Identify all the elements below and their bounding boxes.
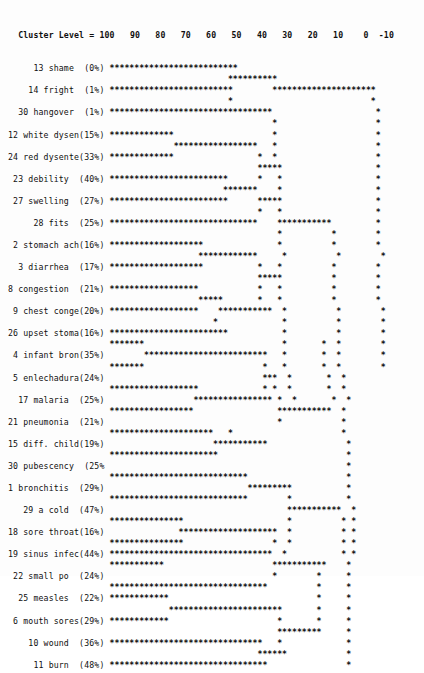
dendrogram-dots: ************* * * — [110, 130, 386, 140]
row-spacer — [8, 428, 110, 438]
row-spacer — [8, 207, 110, 217]
dendrogram-leaf-row: 18 sore throat(16%) ********************… — [8, 527, 394, 538]
row-spacer — [8, 339, 110, 349]
dendrogram-link-row: ********** — [8, 74, 394, 85]
dendrogram-leaf-row: 25 measles (22%) ************ * * — [8, 593, 394, 604]
dendrogram-dots: *********************** * * — [110, 605, 386, 615]
dendrogram-leaf-row: 6 mouth sores(29%) ************ * * * — [8, 616, 394, 627]
dendrogram-dots: ************************ * * * — [110, 174, 386, 184]
dendrogram-dots: * — [110, 461, 386, 471]
dendrogram-link-row: *************** * * * * — [8, 538, 394, 549]
dendrogram-dots: ******************************* * * — [110, 638, 386, 648]
leaf-label: 12 white dysen(15%) — [8, 130, 110, 140]
dendrogram-dots: ********************** * — [110, 450, 386, 460]
dendrogram-leaf-row: 15 diff. child(19%) *********** * — [8, 439, 394, 450]
dendrogram-leaf-row: 5 enlechadura(24%) *** * * * — [8, 373, 394, 384]
dendrogram-dots: ***** * * * * — [110, 295, 386, 305]
dendrogram-leaf-row: 21 pneumonia (21%) * * — [8, 417, 394, 428]
dendrogram-leaf-row: 30 pubescency (25% * — [8, 461, 394, 472]
leaf-label: 21 pneumonia (21%) — [8, 417, 110, 427]
leaf-label: 8 congestion (21%) — [8, 284, 110, 294]
dendrogram-dots: *************** * * * — [110, 516, 386, 526]
dendrogram-dots: *************** * * * * — [110, 538, 386, 548]
leaf-label: 17 malaria (25%) — [8, 395, 110, 405]
dendrogram-link-row: ************ * * * — [8, 251, 394, 262]
leaf-label: 2 stomach ach(16%) — [8, 240, 110, 250]
dendrogram-link-row: ******* * * * * * — [8, 362, 394, 373]
leaf-label: 4 infant bron(35%) — [8, 350, 110, 360]
row-spacer — [8, 472, 110, 482]
row-spacer — [8, 649, 110, 659]
dendrogram-dots: * * * — [110, 229, 386, 239]
dendrogram-leaf-row: 10 wound (36%) *************************… — [8, 638, 394, 649]
dendrogram-dots: ************************ ***** * — [110, 196, 386, 206]
leaf-label: 9 chest conge(20%) — [8, 306, 110, 316]
dendrogram-leaf-row: 24 red dysente(33%) ************* * * * — [8, 152, 394, 163]
dendrogram-leaf-row: 9 chest conge(20%) ****************** **… — [8, 306, 394, 317]
leaf-label: 27 swelling (27%) — [8, 196, 110, 206]
dendrogram-dots: ****************** * * * * * — [110, 384, 386, 394]
dendrogram-link-row: ********************* * * — [8, 428, 394, 439]
leaf-label: 3 diarrhea (17%) — [8, 262, 110, 272]
dendrogram-dots: *** * * * — [110, 373, 386, 383]
row-spacer — [8, 406, 110, 416]
dendrogram-link-row: ***** * * — [8, 273, 394, 284]
dendrogram-leaf-row: 13 shame (0%) ************************** — [8, 63, 394, 74]
dendrogram-leaf-row: 19 sinus infec(44%) ********************… — [8, 549, 394, 560]
dendrogram-leaf-row: 3 diarrhea (17%) ******************* * *… — [8, 262, 394, 273]
dendrogram-dots: ***** * — [110, 163, 386, 173]
dendrogram-dots: ******************************** * — [110, 660, 386, 670]
dendrogram-dots: ********* * — [110, 627, 386, 637]
dendrogram-dots: ********* * — [110, 483, 386, 493]
leaf-label: 23 debility (40%) — [8, 174, 110, 184]
dendrogram-link-row: ********************** * — [8, 450, 394, 461]
row-spacer — [8, 494, 110, 504]
leaf-label: 14 fright (1%) — [8, 85, 110, 95]
row-spacer — [8, 450, 110, 460]
leaf-label: 1 bronchitis (29%) — [8, 483, 110, 493]
dendrogram-leaf-row: 11 burn (48%) **************************… — [8, 660, 394, 671]
dendrogram-dots: ************************* **************… — [110, 85, 381, 95]
row-spacer — [8, 273, 110, 283]
dendrogram-leaf-row: 14 fright (1%) *************************… — [8, 85, 394, 96]
dendrogram-link-row: * * * * — [8, 317, 394, 328]
leaf-label: 30 pubescency (25% — [8, 461, 110, 471]
dendrogram-link-row: ******************************** * * — [8, 582, 394, 593]
dendrogram-dots: * * — [110, 96, 381, 106]
dendrogram-link-row: *********************** * * — [8, 605, 394, 616]
dendrogram-dots: ********************************* * * * — [110, 549, 386, 559]
row-spacer — [8, 362, 110, 372]
dendrogram-leaf-row: 2 stomach ach(16%) ******************* *… — [8, 240, 394, 251]
dendrogram-link-row: ***** * — [8, 163, 394, 174]
dendrogram-dots: ************************** — [110, 63, 381, 73]
row-spacer — [8, 185, 110, 195]
leaf-label: 26 upset stoma(16%) — [8, 328, 110, 338]
axis-header: Cluster Level = 100 90 80 70 60 50 40 30… — [8, 30, 394, 41]
row-spacer — [8, 229, 110, 239]
dendrogram-leaf-row: 26 upset stoma(16%) ********************… — [8, 328, 394, 339]
dendrogram-link-row: * * * — [8, 229, 394, 240]
dendrogram-dots: *********** *********** * — [110, 560, 386, 570]
row-spacer — [8, 118, 110, 128]
dendrogram-leaf-row: 8 congestion (21%) ****************** * … — [8, 284, 394, 295]
dendrogram-dots: ********** — [110, 74, 381, 84]
dendrogram-dots: ******* * * * * — [110, 339, 386, 349]
dendrogram-dots: ****************************** *********… — [110, 218, 386, 228]
row-spacer — [8, 317, 110, 327]
dendrogram-link-row: **************************** * * — [8, 494, 394, 505]
leaf-label: 28 fits (25%) — [8, 218, 110, 228]
leaf-label: 24 red dysente(33%) — [8, 152, 110, 162]
dendrogram-dots: ******************** * * * — [110, 527, 386, 537]
leaf-label: 19 sinus infec(44%) — [8, 549, 110, 559]
dendrogram-dots: ****************** * * * * — [110, 284, 386, 294]
dendrogram-dots: **************** * * * * — [110, 395, 386, 405]
dendrogram-link-row: ***************** * * — [8, 141, 394, 152]
dendrogram-dots: ******************* * * * — [110, 240, 386, 250]
dendrogram-dots: ********************************* * — [110, 107, 386, 117]
dendrogram-dots: ***************** * * — [110, 141, 386, 151]
leaf-label: 6 mouth sores(29%) — [8, 616, 110, 626]
row-spacer — [8, 384, 110, 394]
leaf-label: 30 hangover (1%) — [8, 107, 110, 117]
dendrogram-leaf-row: 28 fits (25%) **************************… — [8, 218, 394, 229]
